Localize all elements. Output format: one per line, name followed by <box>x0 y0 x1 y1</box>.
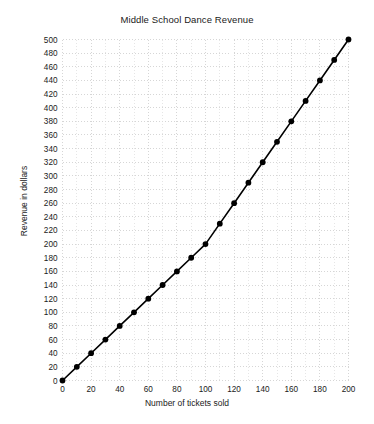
x-axis-tick-labels: 020406080100120140160180200 <box>60 385 356 394</box>
svg-text:200: 200 <box>44 240 58 249</box>
svg-text:360: 360 <box>44 131 58 140</box>
x-axis-label: Number of tickets sold <box>0 398 374 408</box>
svg-text:440: 440 <box>44 76 58 85</box>
svg-text:20: 20 <box>87 385 97 394</box>
svg-text:480: 480 <box>44 49 58 58</box>
svg-text:380: 380 <box>44 117 58 126</box>
svg-text:40: 40 <box>48 349 58 358</box>
svg-text:300: 300 <box>44 172 58 181</box>
svg-text:180: 180 <box>44 254 58 263</box>
svg-text:240: 240 <box>44 213 58 222</box>
svg-text:220: 220 <box>44 226 58 235</box>
svg-text:160: 160 <box>44 267 58 276</box>
svg-text:180: 180 <box>313 385 327 394</box>
svg-text:60: 60 <box>48 336 58 345</box>
svg-text:120: 120 <box>227 385 241 394</box>
svg-text:80: 80 <box>48 322 58 331</box>
grid-lines <box>63 40 349 381</box>
svg-text:140: 140 <box>44 281 58 290</box>
chart-plot-area: 0204060801001201401601802002202402602803… <box>0 0 374 424</box>
svg-text:0: 0 <box>53 377 58 386</box>
svg-text:140: 140 <box>256 385 270 394</box>
svg-text:60: 60 <box>144 385 154 394</box>
svg-text:120: 120 <box>44 295 58 304</box>
svg-text:80: 80 <box>172 385 182 394</box>
svg-text:160: 160 <box>284 385 298 394</box>
y-axis-tick-labels: 0204060801001201401601802002202402602803… <box>44 36 58 386</box>
svg-text:340: 340 <box>44 145 58 154</box>
y-axis-label: Revenue in dollars <box>19 141 29 261</box>
svg-text:280: 280 <box>44 186 58 195</box>
svg-text:460: 460 <box>44 63 58 72</box>
svg-text:100: 100 <box>44 308 58 317</box>
svg-text:500: 500 <box>44 36 58 45</box>
svg-text:260: 260 <box>44 199 58 208</box>
svg-text:420: 420 <box>44 90 58 99</box>
svg-text:200: 200 <box>342 385 356 394</box>
svg-text:400: 400 <box>44 104 58 113</box>
svg-text:40: 40 <box>115 385 125 394</box>
svg-text:20: 20 <box>48 363 58 372</box>
svg-text:320: 320 <box>44 158 58 167</box>
chart-figure: Middle School Dance Revenue 020406080100… <box>0 0 374 424</box>
svg-text:100: 100 <box>199 385 213 394</box>
svg-text:0: 0 <box>60 385 65 394</box>
